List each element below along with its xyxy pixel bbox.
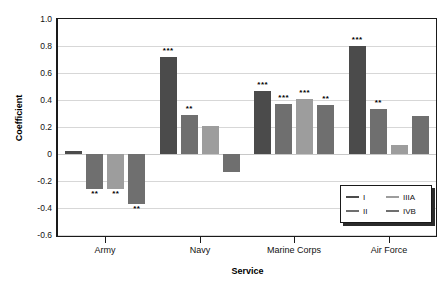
x-axis-tick-label: Army: [95, 245, 116, 255]
x-axis-tick-mark: [389, 237, 390, 243]
x-axis-tick-mark: [200, 237, 201, 243]
significance-marker: ***: [278, 94, 289, 102]
y-axis-tick-label: 0.8: [6, 41, 52, 51]
bar: [275, 104, 292, 154]
x-axis-tick-mark: [105, 237, 106, 243]
legend-entry: II: [346, 207, 386, 216]
bar: [86, 154, 103, 189]
legend-entry: IVB: [386, 207, 426, 216]
legend-swatch: [386, 196, 399, 198]
bar: [254, 91, 271, 154]
y-axis-tick-labels: 1.00.80.60.40.20-0.2-0.4-0.6: [0, 0, 52, 284]
significance-marker: **: [133, 205, 140, 213]
bar: [65, 151, 82, 154]
gridline: [58, 235, 436, 236]
y-axis-tick-label: 1.0: [6, 14, 52, 24]
significance-marker: ***: [299, 89, 310, 97]
legend-swatch: [386, 210, 399, 212]
x-axis-tick-label: Marine Corps: [267, 245, 321, 255]
y-axis-tick-label: -0.6: [6, 230, 52, 240]
legend-label: I: [363, 193, 365, 202]
bar: [128, 154, 145, 204]
legend-swatch: [346, 196, 359, 198]
y-axis-tick-label: 0.4: [6, 95, 52, 105]
y-axis-tick-label: -0.4: [6, 203, 52, 213]
legend-entry: IIIA: [386, 193, 426, 202]
significance-marker: ***: [352, 36, 363, 44]
y-axis-tick-label: 0.6: [6, 68, 52, 78]
bar: [412, 116, 429, 154]
significance-marker: **: [186, 105, 193, 113]
significance-marker: **: [322, 95, 329, 103]
legend-entry: I: [346, 193, 386, 202]
bar: [202, 126, 219, 154]
gridline: [58, 46, 436, 47]
x-axis-title: Service: [55, 266, 440, 276]
y-axis-tick-label: 0.2: [6, 122, 52, 132]
legend: IIIIAIIIVB: [340, 185, 432, 223]
x-axis-tick-label: Air Force: [371, 245, 408, 255]
legend-label: II: [363, 207, 367, 216]
significance-marker: ***: [163, 47, 174, 55]
significance-marker: ***: [257, 81, 268, 89]
bar: [160, 57, 177, 154]
y-axis-tick-label: -0.2: [6, 176, 52, 186]
bar: [349, 46, 366, 154]
gridline: [58, 73, 436, 74]
significance-marker: **: [112, 190, 119, 198]
bar-chart: Coefficient 1.00.80.60.40.20-0.2-0.4-0.6…: [0, 0, 445, 284]
bar: [391, 145, 408, 154]
bar: [181, 115, 198, 154]
y-axis-tick-label: 0: [6, 149, 52, 159]
bar: [317, 105, 334, 154]
legend-swatch: [346, 210, 359, 212]
bar: [223, 154, 240, 172]
bar: [107, 154, 124, 189]
bar: [296, 99, 313, 154]
legend-label: IIIA: [403, 193, 415, 202]
bar: [370, 109, 387, 154]
significance-marker: **: [91, 190, 98, 198]
significance-marker: **: [375, 99, 382, 107]
legend-label: IVB: [403, 207, 416, 216]
x-axis-tick-label: Navy: [190, 245, 211, 255]
x-axis-tick-mark: [294, 237, 295, 243]
